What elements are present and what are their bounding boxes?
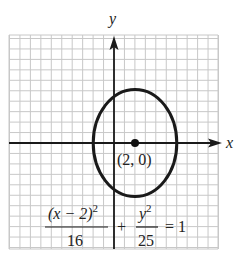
eq-plus: + bbox=[117, 218, 126, 235]
x-axis-label: x bbox=[225, 134, 233, 151]
eq-equals: = 1 bbox=[165, 218, 186, 235]
eq-term2-denominator: 25 bbox=[138, 232, 154, 249]
ellipse-figure: x y (2, 0) (x − 2)2 16 + y2 25 = 1 bbox=[0, 0, 243, 266]
equation: (x − 2)2 16 + y2 25 = 1 bbox=[45, 202, 186, 249]
svg-text:(x − 2)2: (x − 2)2 bbox=[48, 202, 98, 223]
eq-term1-denominator: 16 bbox=[67, 232, 83, 249]
svg-text:y2: y2 bbox=[137, 202, 152, 223]
y-axis-label: y bbox=[107, 10, 117, 28]
eq-term1-numerator: (x − 2) bbox=[48, 205, 93, 223]
eq-term1-exponent: 2 bbox=[93, 202, 99, 214]
eq-term2-exponent: 2 bbox=[146, 202, 152, 214]
center-point bbox=[131, 139, 139, 147]
center-point-label: (2, 0) bbox=[117, 151, 152, 169]
